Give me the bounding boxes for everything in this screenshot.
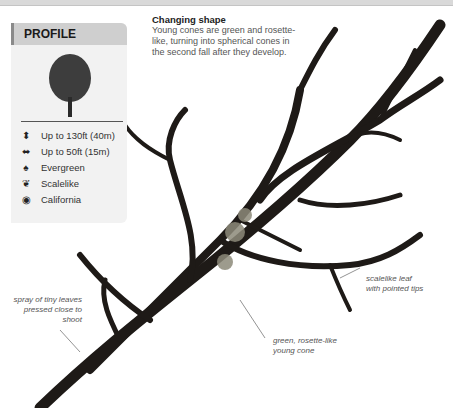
fact-leaf-type: ❦Scalelike <box>19 175 115 191</box>
caption-block: Changing shape Young cones are green and… <box>152 14 302 58</box>
annotation-scalelike-leaf: scalelike leaf with pointed tips <box>366 274 428 294</box>
evergreen-icon: ♠ <box>19 161 33 173</box>
width-arrows-icon: ⬌ <box>19 145 33 157</box>
caption-title: Changing shape <box>152 14 302 25</box>
fact-height: ⬍Up to 130ft (40m) <box>19 127 115 143</box>
profile-divider <box>21 121 123 122</box>
globe-icon: ◉ <box>19 193 33 205</box>
annotation-spray: spray of tiny leaves pressed close to sh… <box>12 295 82 325</box>
leaf-icon: ❦ <box>19 177 33 189</box>
caption-body: Young cones are green and rosette-like, … <box>152 25 302 58</box>
tree-silhouette-icon <box>45 53 95 118</box>
profile-title: PROFILE <box>11 23 127 45</box>
annotation-young-cone: green, rosette-like young cone <box>273 336 353 356</box>
fact-region: ◉California <box>19 191 115 207</box>
height-arrows-icon: ⬍ <box>19 129 33 141</box>
fact-foliage-type: ♠Evergreen <box>19 159 115 175</box>
fact-spread: ⬌Up to 50ft (15m) <box>19 143 115 159</box>
profile-panel: PROFILE ⬍Up to 130ft (40m) ⬌Up to 50ft (… <box>11 23 127 223</box>
profile-facts: ⬍Up to 130ft (40m) ⬌Up to 50ft (15m) ♠Ev… <box>19 127 115 207</box>
